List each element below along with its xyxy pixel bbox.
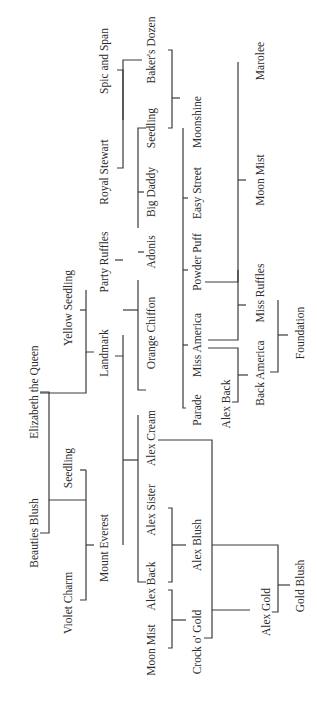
node-label-alexblush: Alex Blush (191, 519, 203, 571)
node-labels: Elizabeth the QueenBeauties BlushYellow … (28, 16, 306, 675)
node-label-royal: Royal Stewart (98, 138, 111, 204)
connector-line (158, 440, 212, 638)
connector-lines (40, 50, 290, 648)
node-label-adonis: Adonis (145, 235, 157, 269)
node-label-crock: Crock o' Gold (191, 609, 203, 674)
connector-line (168, 508, 172, 582)
node-label-yellowseedling: Yellow Seedling (62, 270, 75, 346)
node-label-violet: Violet Charm (62, 572, 74, 634)
node-label-backamerica: Back America (254, 340, 266, 405)
node-label-moonshine: Moonshine (191, 96, 203, 148)
node-label-seedling1: Seedling (62, 448, 75, 488)
node-label-foundation: Foundation (294, 307, 306, 360)
connector-line (86, 290, 94, 352)
node-label-goldblush: Gold Blush (294, 559, 306, 612)
node-label-moonmist1: Moon Mist (145, 623, 157, 675)
connector-line (208, 270, 238, 340)
node-label-bigdaddy: Big Daddy (145, 167, 158, 217)
connector-line (168, 50, 172, 128)
node-label-marolee: Marolee (254, 42, 266, 80)
node-label-powderpuff: Powder Puff (191, 233, 203, 291)
node-label-beauties: Beauties Blush (28, 498, 40, 568)
node-label-alexback2: Alex Back (220, 379, 232, 428)
node-label-missamerica: Miss America (191, 313, 203, 377)
connector-line (123, 60, 142, 120)
node-label-easystreet: Easy Street (191, 166, 204, 219)
connector-line (115, 356, 123, 545)
connector-line (183, 128, 186, 408)
node-label-alexback1: Alex Back (145, 561, 157, 610)
connector-line (270, 300, 278, 372)
node-label-alexsister: Alex Sister (145, 484, 157, 536)
node-label-missruffles: Miss Ruffles (254, 263, 266, 322)
node-label-spic: Spic and Span (98, 28, 111, 94)
connector-line (80, 470, 86, 600)
connector-line (205, 62, 238, 282)
node-label-orange: Orange Chiffon (145, 297, 158, 370)
node-label-landmark: Landmark (98, 329, 110, 377)
node-label-elizabeth: Elizabeth the Queen (28, 345, 40, 438)
connector-line (40, 352, 86, 393)
node-label-parade: Parade (191, 394, 203, 425)
connector-line (40, 500, 49, 533)
node-label-seedling2: Seedling (145, 108, 158, 148)
node-label-alexcream: Alex Cream (145, 410, 157, 466)
pedigree-diagram: Elizabeth the QueenBeauties BlushYellow … (0, 0, 317, 714)
node-label-moonmist2: Moon Mist (254, 153, 266, 205)
node-label-alexgold: Alex Gold (260, 588, 272, 636)
node-label-bakers: Baker's Dozen (145, 16, 157, 83)
connector-line (117, 70, 123, 168)
connector-line (168, 590, 172, 648)
node-label-everest: Mount Everest (98, 513, 110, 582)
node-label-party: Party Ruffles (98, 231, 111, 292)
